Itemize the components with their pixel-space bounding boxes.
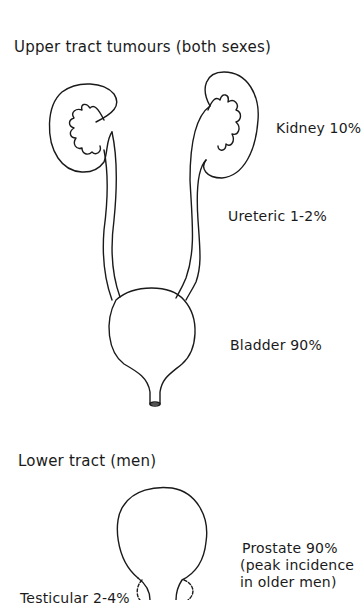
bladder-label: Bladder 90% — [230, 337, 322, 353]
prostate-right-dashed — [184, 580, 193, 600]
testicular-label: Testicular 2-4% — [20, 590, 130, 606]
prostate-left-dashed — [137, 580, 142, 600]
right-ureter-outer — [176, 106, 210, 298]
left-ureter-inner — [103, 150, 112, 300]
left-kidney-calyces — [70, 104, 105, 154]
right-kidney-calyces — [208, 95, 241, 150]
lower-tract-title: Lower tract (men) — [18, 452, 156, 470]
lower-bladder — [117, 488, 206, 600]
prostate-label-line2: (peak incidence — [240, 557, 354, 573]
kidney-label: Kidney 10% — [276, 120, 361, 136]
ureteric-label: Ureteric 1-2% — [228, 208, 327, 224]
right-kidney — [204, 72, 258, 178]
right-ureter-inner — [186, 160, 206, 300]
left-ureter-outer — [112, 132, 120, 297]
prostate-label-line1: Prostate 90% — [242, 540, 338, 556]
bladder — [109, 288, 195, 404]
left-kidney — [49, 84, 116, 172]
lower-bladder-left-neck — [138, 578, 150, 600]
prostate-label-line3: in older men) — [240, 574, 337, 590]
upper-tract-title: Upper tract tumours (both sexes) — [14, 38, 271, 56]
